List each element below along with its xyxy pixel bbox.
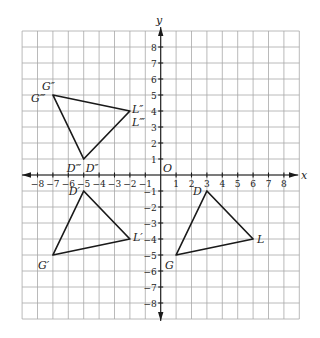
vertex-label: G′	[38, 259, 50, 272]
coordinate-plane: x y O −8−7−6−5−4−3−2−11234567887654321−1…	[0, 0, 320, 338]
vertex-label: L	[256, 233, 264, 246]
x-tick-label: 6	[250, 179, 256, 189]
y-axis-label: y	[155, 14, 163, 27]
x-tick-label: 4	[219, 179, 225, 189]
x-tick-label: −4	[92, 179, 106, 189]
origin-label: O	[163, 162, 172, 175]
y-tick-label: −8	[143, 299, 157, 309]
y-tick-label: −1	[143, 187, 156, 197]
x-tick-label: −3	[108, 179, 122, 189]
x-tick-label: −2	[123, 179, 136, 189]
y-tick-label: −4	[143, 235, 157, 245]
vertex-label: D″	[85, 162, 100, 175]
vertex-label: L″	[131, 103, 144, 116]
vertex-label: L‴	[131, 116, 145, 129]
x-tick-label: −7	[46, 179, 60, 189]
vertex-label: D	[192, 185, 202, 198]
vertex-label: D‴	[66, 162, 82, 175]
y-axis-down-arrow-icon	[158, 312, 163, 321]
y-tick-label: 3	[151, 123, 157, 133]
x-tick-label: 7	[266, 179, 272, 189]
y-tick-label: 7	[151, 59, 157, 69]
vertex-label: G‴	[31, 92, 46, 105]
y-tick-label: −2	[143, 203, 156, 213]
vertex-label: L′	[132, 231, 143, 244]
vertex-label: G	[165, 259, 174, 272]
y-axis-up-arrow-icon	[158, 27, 163, 36]
y-tick-label: 4	[151, 107, 157, 117]
axes: x y O	[22, 14, 308, 321]
y-tick-label: −5	[143, 251, 157, 261]
vertex-label: D′	[68, 185, 81, 198]
x-tick-label: 3	[204, 179, 210, 189]
x-axis-left-arrow-icon	[22, 172, 31, 177]
x-tick-label: 5	[235, 179, 241, 189]
coordinate-plane-figure: x y O −8−7−6−5−4−3−2−11234567887654321−1…	[0, 0, 320, 338]
y-tick-label: 5	[151, 91, 157, 101]
x-tick-label: 1	[173, 179, 179, 189]
y-tick-label: −7	[143, 283, 157, 293]
y-tick-label: 1	[151, 155, 157, 165]
x-tick-label: −8	[31, 179, 45, 189]
x-tick-label: 8	[281, 179, 287, 189]
y-tick-label: 2	[151, 139, 157, 149]
y-tick-label: −3	[143, 219, 157, 229]
y-tick-label: 6	[151, 75, 157, 85]
x-axis-right-arrow-icon	[289, 172, 298, 177]
y-tick-label: 8	[151, 43, 157, 53]
x-axis-label: x	[301, 169, 308, 182]
y-tick-label: −6	[143, 267, 157, 277]
